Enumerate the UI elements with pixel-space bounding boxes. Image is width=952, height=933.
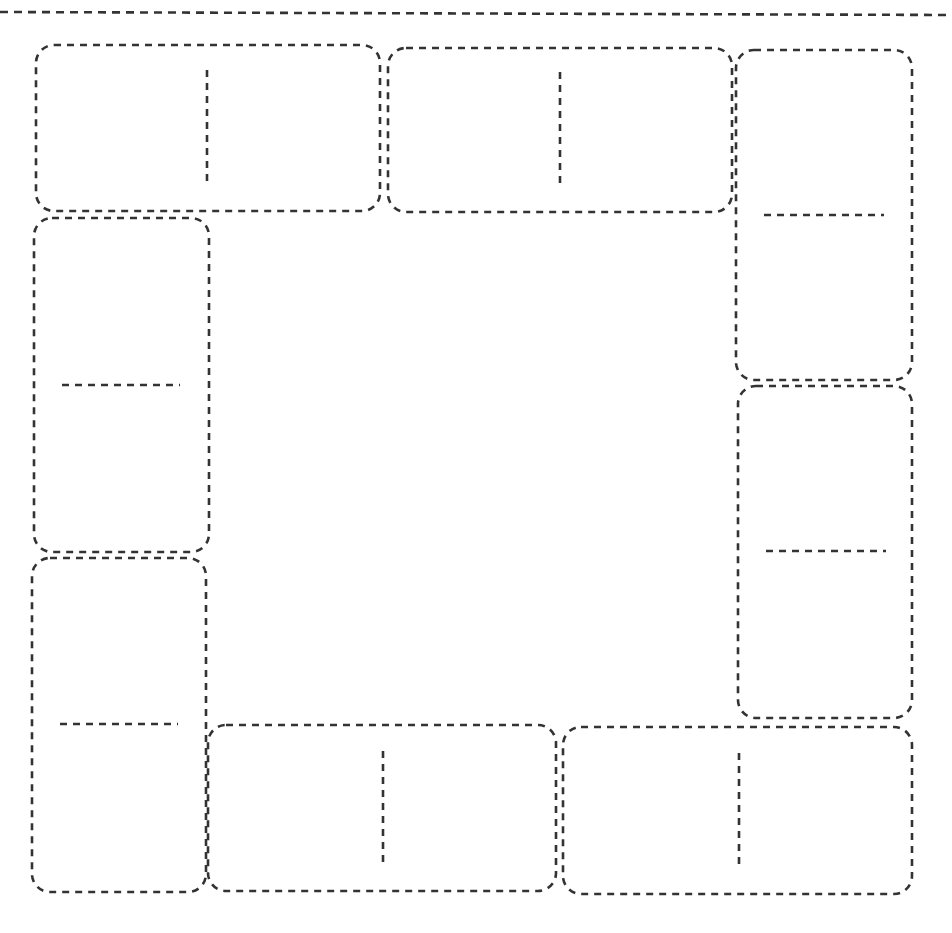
domino-tile-top-left [36,45,380,211]
domino-tile-right-lower [738,386,912,718]
top-dashed-rule [0,12,952,15]
domino-outline [736,50,912,380]
domino-tile-bottom-right [563,727,912,894]
domino-tile-bottom-middle [208,725,556,891]
domino-tile-left-lower [32,558,206,892]
domino-tile-left-upper [34,218,209,552]
domino-tile-right-upper [736,50,912,380]
domino-diagram [0,0,952,933]
diagram-svg [0,0,952,933]
domino-outline [34,218,209,552]
domino-tile-top-middle [388,48,732,212]
domino-outline [563,727,912,894]
domino-ring [32,45,912,894]
